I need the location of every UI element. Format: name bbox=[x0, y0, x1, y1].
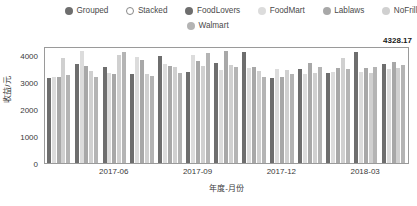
bar-lablaws-2017-05[interactable] bbox=[84, 66, 88, 163]
bar-walmart-2017-11[interactable] bbox=[262, 77, 266, 163]
x-axis-tick-label: 2018-03 bbox=[350, 167, 379, 176]
legend-item-label: FoodLovers bbox=[197, 7, 240, 15]
bar-foodmart-2017-11[interactable] bbox=[247, 68, 251, 163]
bar-foodlovers-2018-01[interactable] bbox=[298, 69, 302, 163]
bar-nofrill-2017-08[interactable] bbox=[173, 67, 177, 163]
bar-nofrill-2018-01[interactable] bbox=[313, 73, 317, 163]
legend-item-label: FoodMart bbox=[270, 7, 305, 15]
bar-foodmart-2017-10[interactable] bbox=[219, 70, 223, 163]
bar-foodlovers-2017-07[interactable] bbox=[130, 74, 134, 163]
bar-foodlovers-2017-08[interactable] bbox=[158, 56, 162, 163]
bar-foodmart-2017-07[interactable] bbox=[135, 57, 139, 163]
bar-walmart-2018-04[interactable] bbox=[401, 65, 405, 163]
legend-item-grouped[interactable]: Grouped bbox=[65, 7, 108, 15]
bar-foodmart-2017-09[interactable] bbox=[191, 55, 195, 163]
bar-lablaws-2017-07[interactable] bbox=[140, 60, 144, 163]
bar-walmart-2017-10[interactable] bbox=[234, 67, 238, 163]
bar-lablaws-2017-12[interactable] bbox=[280, 77, 284, 163]
bar-foodlovers-2017-05[interactable] bbox=[75, 64, 79, 163]
bar-walmart-2018-02[interactable] bbox=[346, 69, 350, 163]
bar-walmart-2017-05[interactable] bbox=[94, 77, 98, 164]
legend-item-label: Grouped bbox=[77, 7, 109, 15]
bar-nofrill-2017-09[interactable] bbox=[201, 66, 205, 163]
legend-item-foodmart[interactable]: FoodMart bbox=[258, 7, 305, 15]
x-axis-tick-labels: 2017-062017-092017-122018-03 bbox=[44, 167, 409, 179]
chart-legend: GroupedStackedFoodLoversFoodMartLablawsN… bbox=[0, 4, 415, 36]
bar-lablaws-2017-10[interactable] bbox=[224, 51, 228, 163]
bar-foodlovers-2017-12[interactable] bbox=[270, 78, 274, 163]
y-axis-tick-label: 1000 bbox=[20, 132, 38, 141]
bar-lablaws-2017-11[interactable] bbox=[252, 67, 256, 163]
bar-foodmart-2018-03[interactable] bbox=[359, 72, 363, 163]
bar-nofrill-2017-10[interactable] bbox=[229, 65, 233, 163]
legend-item-walmart[interactable]: Walmart bbox=[187, 22, 229, 30]
legend-item-stacked[interactable]: Stacked bbox=[126, 7, 167, 15]
bar-walmart-2017-06[interactable] bbox=[122, 52, 126, 163]
bar-nofrill-2017-12[interactable] bbox=[285, 70, 289, 163]
x-axis-tick-label: 2017-12 bbox=[267, 167, 296, 176]
y-axis-tick-label: 3000 bbox=[20, 78, 38, 87]
y-axis-tick-label: 2000 bbox=[20, 105, 38, 114]
bar-nofrill-2018-03[interactable] bbox=[369, 73, 373, 163]
filled-circle-icon bbox=[65, 7, 73, 15]
bar-walmart-2017-08[interactable] bbox=[178, 73, 182, 163]
bar-nofrill-2018-04[interactable] bbox=[396, 68, 400, 163]
bar-foodlovers-2018-03[interactable] bbox=[354, 52, 358, 163]
bar-walmart-2017-07[interactable] bbox=[150, 76, 154, 163]
bar-lablaws-2018-01[interactable] bbox=[308, 63, 312, 163]
y-axis-title: 收益/元 bbox=[1, 62, 12, 118]
bars-layer bbox=[45, 48, 408, 163]
y-axis-max-label: 4328.17 bbox=[383, 36, 412, 45]
legend-item-nofrill[interactable]: NoFrill bbox=[382, 7, 417, 15]
bar-foodlovers-2017-10[interactable] bbox=[214, 63, 218, 163]
bar-walmart-2018-03[interactable] bbox=[373, 67, 377, 163]
bar-walmart-2017-12[interactable] bbox=[290, 74, 294, 163]
bar-foodmart-2017-04[interactable] bbox=[52, 77, 56, 163]
bar-foodmart-2017-12[interactable] bbox=[275, 69, 279, 163]
x-axis-title: 年度-月份 bbox=[44, 182, 409, 193]
bar-walmart-2017-04[interactable] bbox=[66, 75, 70, 163]
bar-nofrill-2018-02[interactable] bbox=[341, 58, 345, 163]
bar-lablaws-2017-08[interactable] bbox=[168, 66, 172, 163]
bar-lablaws-2018-04[interactable] bbox=[392, 62, 396, 163]
bar-nofrill-2017-07[interactable] bbox=[145, 74, 149, 163]
bar-foodlovers-2017-09[interactable] bbox=[186, 72, 190, 163]
bar-nofrill-2017-05[interactable] bbox=[89, 71, 93, 163]
bar-lablaws-2018-02[interactable] bbox=[336, 68, 340, 163]
bar-foodmart-2017-06[interactable] bbox=[107, 73, 111, 163]
legend-item-label: Stacked bbox=[138, 7, 168, 15]
bar-foodmart-2018-02[interactable] bbox=[331, 72, 335, 163]
bar-foodlovers-2018-02[interactable] bbox=[326, 73, 330, 163]
bar-lablaws-2017-09[interactable] bbox=[196, 61, 200, 163]
bar-foodlovers-2017-04[interactable] bbox=[47, 78, 51, 163]
bar-lablaws-2017-06[interactable] bbox=[112, 74, 116, 163]
bar-foodmart-2018-04[interactable] bbox=[387, 69, 391, 163]
bar-foodlovers-2017-06[interactable] bbox=[103, 67, 107, 163]
bar-foodlovers-2017-11[interactable] bbox=[242, 52, 246, 163]
bar-walmart-2018-01[interactable] bbox=[318, 67, 322, 163]
filled-circle-icon bbox=[382, 7, 390, 15]
y-axis-tick-label: 4000 bbox=[20, 51, 38, 60]
bar-nofrill-2017-06[interactable] bbox=[117, 55, 121, 163]
bar-foodmart-2017-08[interactable] bbox=[163, 64, 167, 163]
bar-foodmart-2017-05[interactable] bbox=[80, 51, 84, 163]
bar-lablaws-2017-04[interactable] bbox=[57, 77, 61, 163]
filled-circle-icon bbox=[185, 7, 193, 15]
bar-foodmart-2018-01[interactable] bbox=[303, 74, 307, 163]
legend-item-label: NoFrill bbox=[394, 7, 417, 15]
bar-lablaws-2018-03[interactable] bbox=[364, 68, 368, 163]
y-axis-tick-label: 0 bbox=[34, 160, 38, 169]
legend-item-lablaws[interactable]: Lablaws bbox=[323, 7, 365, 15]
bar-nofrill-2017-11[interactable] bbox=[257, 71, 261, 163]
legend-row-series: Walmart bbox=[0, 19, 415, 34]
legend-item-label: Walmart bbox=[199, 22, 229, 30]
filled-circle-icon bbox=[258, 7, 266, 15]
filled-circle-icon bbox=[323, 7, 331, 15]
filled-circle-icon bbox=[187, 22, 195, 30]
bar-nofrill-2017-04[interactable] bbox=[61, 58, 65, 163]
bar-walmart-2017-09[interactable] bbox=[206, 53, 210, 163]
hollow-circle-icon bbox=[126, 7, 134, 15]
bar-foodlovers-2018-04[interactable] bbox=[382, 64, 386, 163]
legend-item-foodlovers[interactable]: FoodLovers bbox=[185, 7, 240, 15]
